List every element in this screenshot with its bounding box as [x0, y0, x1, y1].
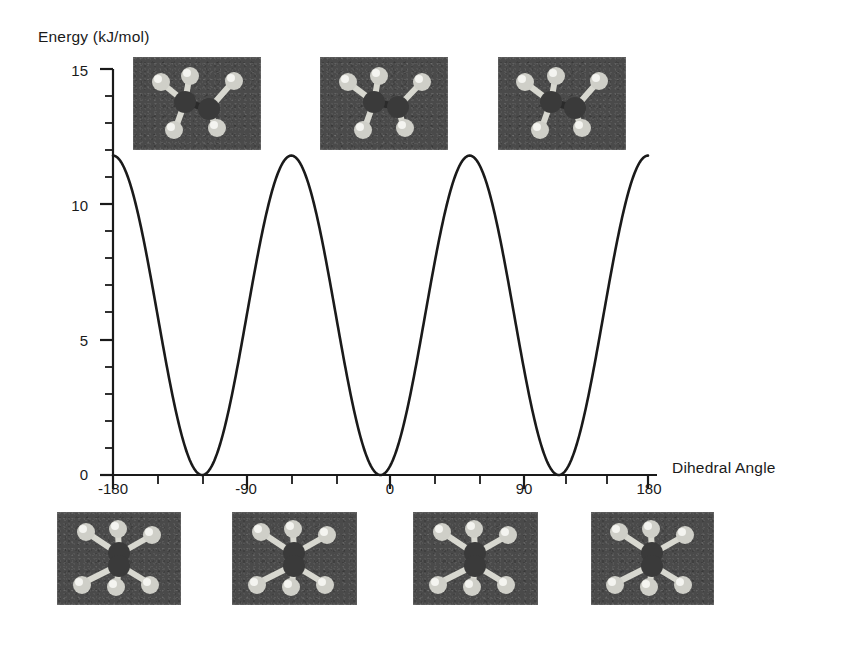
staggered-conformer-thumbnail-1: [57, 512, 181, 605]
y-minor-ticks: [105, 96, 113, 448]
carbon-atom: [198, 98, 220, 120]
x-minor-ticks: [158, 475, 607, 484]
carbon-atom: [564, 97, 586, 119]
y-major-ticks: [100, 69, 113, 475]
staggered-conformer-thumbnail-3: [413, 512, 538, 605]
carbon-atom: [283, 555, 305, 577]
staggered-molecule-model-4: [591, 512, 714, 605]
carbon-atom: [108, 555, 130, 577]
energy-curve: [113, 156, 648, 475]
carbon-atom: [174, 91, 196, 113]
staggered-molecule-model-2: [232, 512, 357, 605]
staggered-molecule-model-1: [57, 512, 181, 605]
carbon-atom: [387, 96, 409, 118]
staggered-conformer-thumbnail-2: [232, 512, 357, 605]
eclipsed-conformer-thumbnail-3: [498, 57, 626, 150]
torsional-energy-figure: Energy (kJ/mol) Dihedral Angle 15 10 5 0…: [0, 0, 841, 647]
x-major-ticks: [113, 475, 648, 489]
carbon-atom: [540, 91, 562, 113]
carbon-atom: [641, 555, 663, 577]
eclipsed-conformer-thumbnail-2: [320, 57, 448, 150]
eclipsed-molecule-model-3: [498, 57, 626, 150]
carbon-atom: [363, 91, 385, 113]
eclipsed-molecule-model-1: [133, 57, 261, 150]
staggered-molecule-model-3: [413, 512, 538, 605]
staggered-conformer-thumbnail-4: [591, 512, 714, 605]
eclipsed-molecule-model-2: [320, 57, 448, 150]
eclipsed-conformer-thumbnail-1: [133, 57, 261, 150]
carbon-atom: [464, 555, 486, 577]
